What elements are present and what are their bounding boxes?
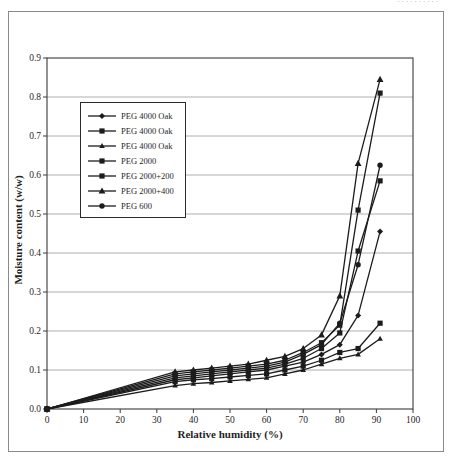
data-point-marker [337,330,342,335]
legend-item: PEG 2000 [87,153,181,168]
data-point-marker [377,178,382,183]
data-point-marker [264,363,269,368]
y-tick-label: 0.8 [29,92,41,102]
legend-marker-icon [87,111,117,121]
data-point-marker [356,346,361,351]
data-point-marker [337,321,342,326]
data-point-marker [356,248,361,253]
data-point-marker [377,163,382,168]
data-point-marker [44,406,49,411]
legend-item-label: PEG 2000+200 [121,171,174,181]
legend-item: PEG 2000+400 [87,183,181,198]
data-point-marker [355,262,360,267]
data-point-marker [318,331,325,337]
data-point-marker [377,336,383,341]
legend-marker-icon [87,201,117,211]
x-axis-title: Relative humidity (%) [47,428,413,440]
legend-item-label: PEG 600 [121,201,152,211]
y-tick-label: 0.5 [29,209,41,219]
legend: PEG 4000 OakPEG 4000 OakPEG 4000 OakPEG … [80,102,186,218]
legend-item-label: PEG 2000+400 [121,186,174,196]
data-point-marker [319,342,324,347]
x-tick-label: 100 [406,415,421,425]
legend-marker-icon [87,126,117,136]
x-tick-label: 40 [189,415,199,425]
legend-item: PEG 2000+200 [87,168,181,183]
data-point-marker [377,76,384,82]
x-tick-label: 10 [79,415,89,425]
data-point-marker [301,352,306,357]
x-tick-label: 60 [262,415,272,425]
x-tick-label: 90 [372,415,382,425]
data-point-marker [282,360,287,365]
legend-marker-icon [87,141,117,151]
figure-page: .......... 0.00.10.20.30.40.50.60.70.80.… [0,0,452,459]
y-tick-label: 0.1 [29,365,41,375]
legend-item-label: PEG 4000 Oak [121,126,172,136]
data-point-marker [336,292,343,298]
data-point-marker [356,208,361,213]
data-point-marker [191,371,196,376]
x-tick-label: 0 [45,415,50,425]
x-tick-label: 70 [298,415,308,425]
legend-marker-icon [87,171,117,181]
data-point-marker [319,351,325,357]
legend-item: PEG 600 [87,198,181,213]
legend-marker-icon [87,156,117,166]
data-point-marker [377,229,383,235]
legend-item-label: PEG 2000 [121,156,156,166]
data-point-marker [377,91,382,96]
x-tick-label: 20 [115,415,125,425]
legend-item: PEG 4000 Oak [87,123,181,138]
data-point-marker [355,351,361,356]
legend-item-label: PEG 4000 Oak [121,141,172,151]
x-tick-label: 30 [152,415,162,425]
data-point-marker [246,365,251,370]
y-tick-label: 0.9 [29,53,41,63]
data-point-marker [337,350,342,355]
data-point-marker [227,367,232,372]
y-tick-label: 0.0 [29,404,41,414]
data-point-marker [355,312,361,318]
y-tick-label: 0.4 [29,248,41,258]
legend-item: PEG 4000 Oak [87,138,181,153]
y-axis-title: Moisture content (w/w) [12,130,24,330]
moisture-sorption-chart: 0.00.10.20.30.40.50.60.70.80.90102030405… [0,0,452,459]
y-tick-label: 0.2 [29,326,41,336]
data-point-marker [172,373,177,378]
legend-marker-icon [87,186,117,196]
y-tick-label: 0.3 [29,287,41,297]
data-point-marker [355,160,362,166]
data-point-marker [377,321,382,326]
data-point-marker [300,345,307,351]
y-tick-label: 0.6 [29,170,41,180]
y-tick-label: 0.7 [29,131,41,141]
data-point-marker [337,342,343,348]
legend-item-label: PEG 4000 Oak [121,111,172,121]
x-tick-label: 80 [335,415,345,425]
data-point-marker [209,369,214,374]
x-tick-label: 50 [225,415,235,425]
legend-item: PEG 4000 Oak [87,108,181,123]
